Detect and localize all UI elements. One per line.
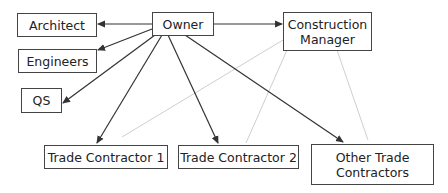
node-engineers: Engineers — [18, 49, 97, 73]
edge-owner-to-trade-contractor-1 — [97, 35, 162, 143]
edge-owner-to-trade-contractor-2 — [168, 35, 218, 143]
node-qs: QS — [21, 88, 62, 113]
node-construction-manager: Construction Manager — [283, 12, 372, 51]
edge-cm-to-trade-contractor-1 — [122, 40, 283, 137]
edge-owner-to-engineers — [98, 29, 152, 50]
edge-cm-to-trade-contractor-2 — [246, 50, 287, 143]
edge-cm-to-other-trade-contractors — [337, 50, 368, 140]
node-owner: Owner — [152, 12, 214, 36]
node-other-trade-contractors: Other Trade Contractors — [311, 144, 434, 185]
node-architect: Architect — [17, 13, 97, 37]
node-trade-contractor-1: Trade Contractor 1 — [44, 145, 168, 169]
node-trade-contractor-2: Trade Contractor 2 — [178, 145, 299, 169]
